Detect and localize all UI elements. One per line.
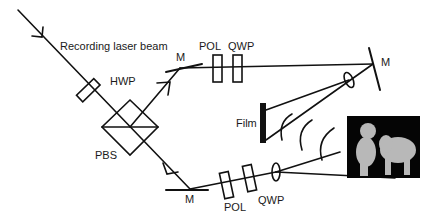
mirror-right-label: M	[381, 57, 390, 68]
wavefront-arc	[300, 120, 312, 150]
beam-arrow-icon	[32, 27, 43, 37]
qwp-bottom	[242, 164, 256, 191]
beam-label: Recording laser beam	[60, 41, 168, 52]
mirror-bottom-label: M	[185, 194, 194, 205]
pol-top-label: POL	[199, 41, 221, 52]
film-plate	[260, 103, 266, 143]
pol-bottom-label: POL	[224, 202, 246, 213]
qwp-bottom-label: QWP	[258, 195, 284, 206]
mirror-top-label: M	[176, 52, 185, 63]
pbs-label: PBS	[95, 150, 117, 161]
incoming-beam	[18, 10, 190, 189]
reference-beam-up	[130, 68, 180, 127]
film-label: Film	[236, 118, 257, 129]
optical-paths	[0, 0, 432, 220]
mirror-right	[369, 48, 380, 90]
pol-bottom	[219, 171, 233, 198]
wavefront-arc	[281, 114, 292, 140]
pol-top	[213, 55, 222, 82]
holography-setup-diagram: Recording laser beam HWP PBS M POL QWP M…	[0, 0, 432, 220]
hwp-label: HWP	[110, 76, 136, 87]
qwp-top-label: QWP	[228, 41, 254, 52]
object-image	[347, 116, 420, 178]
qwp-top	[233, 55, 242, 82]
